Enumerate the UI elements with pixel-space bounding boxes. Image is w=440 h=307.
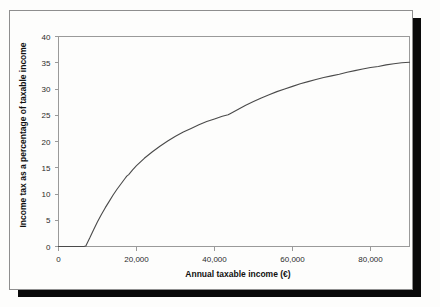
y-tick-label: 35 [42, 59, 51, 68]
x-tick-label: 0 [56, 255, 61, 264]
y-tick-label: 10 [42, 190, 51, 199]
plot-box-border [59, 37, 410, 247]
y-tick-label: 40 [42, 33, 51, 42]
x-tick-label: 60,000 [280, 255, 305, 264]
y-tick-label: 20 [42, 138, 51, 147]
y-axis-title: Income tax as a percentage of taxable in… [18, 42, 28, 227]
x-axis-ticks: 020,00040,00060,00080,000 [56, 247, 383, 264]
y-tick-label: 0 [46, 243, 51, 252]
data-series-line [59, 62, 410, 246]
x-tick-label: 40,000 [202, 255, 227, 264]
x-axis-title: Annual taxable income (€) [185, 269, 290, 279]
x-tick-label: 80,000 [358, 255, 383, 264]
chart-frame: Income tax as a percentage of taxable in… [9, 10, 413, 290]
y-axis-ticks: 0510152025303540 [42, 33, 59, 252]
figure-shadow-bottom [18, 289, 421, 297]
y-tick-label: 25 [42, 111, 51, 120]
figure-shadow-right [413, 18, 421, 297]
y-tick-label: 15 [42, 164, 51, 173]
y-tick-label: 5 [46, 216, 51, 225]
figure-container: Income tax as a percentage of taxable in… [0, 0, 440, 307]
y-tick-label: 30 [42, 85, 51, 94]
line-chart: Income tax as a percentage of taxable in… [10, 11, 412, 289]
x-tick-label: 20,000 [124, 255, 149, 264]
